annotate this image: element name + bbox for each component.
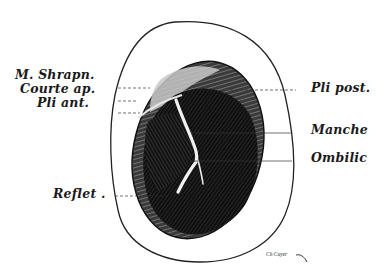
label-m-shrapn: M. Shrapn. <box>15 67 95 82</box>
label-reflet: Reflet . <box>53 186 106 201</box>
label-courte-ap: Courte ap. <box>20 81 95 96</box>
label-ombilic: Ombilic <box>311 150 367 165</box>
label-pli-post: Pli post. <box>311 80 370 95</box>
signature-flourish <box>296 255 307 262</box>
artist-signature: Ch Cuyer <box>266 251 287 257</box>
eardrum-illustration <box>0 0 385 277</box>
label-manche: Manche <box>311 122 368 137</box>
eardrum-diagram: M. Shrapn. Courte ap. Pli ant. Reflet . … <box>0 0 385 277</box>
label-pli-ant: Pli ant. <box>37 95 89 110</box>
